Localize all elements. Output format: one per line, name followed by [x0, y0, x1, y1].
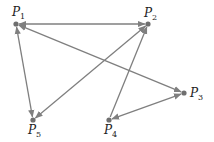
node-p2 [145, 21, 150, 26]
node-label-p4: P4 [103, 123, 117, 139]
node-subscript: 1 [20, 12, 25, 21]
node-p3 [181, 90, 186, 95]
node-p4 [106, 117, 111, 122]
node-label-p1: P1 [11, 5, 25, 21]
node-subscript: 4 [112, 130, 117, 139]
node-label-p5: P5 [27, 123, 41, 139]
nodes-group: P1P2P3P4P5 [11, 5, 203, 139]
node-subscript: 3 [198, 93, 203, 102]
graph-diagram: P1P2P3P4P5 [0, 0, 214, 142]
node-label-p2: P2 [143, 6, 157, 22]
node-label-p3: P3 [189, 86, 203, 102]
edge-p3-p4 [112, 94, 181, 119]
node-subscript: 2 [152, 13, 157, 22]
edges-group [17, 24, 181, 119]
edge-p1-p5 [17, 27, 33, 117]
edge-p1-p3 [19, 25, 181, 92]
node-subscript: 5 [36, 130, 41, 139]
node-p1 [13, 21, 18, 26]
node-p5 [30, 117, 35, 122]
